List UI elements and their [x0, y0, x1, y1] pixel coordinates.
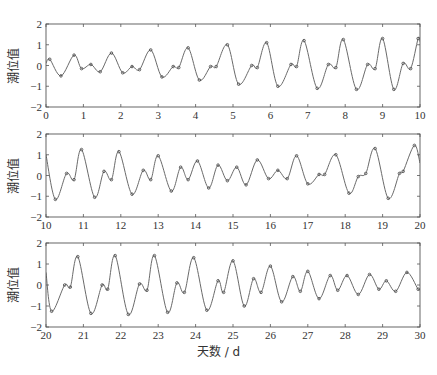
- x-tick-label: 22: [115, 329, 126, 341]
- y-tick-label: 2: [37, 237, 43, 249]
- y-tick-label: 1: [37, 39, 43, 51]
- x-tick-label: 10: [41, 219, 53, 231]
- y-axis-label: 潮位值: [6, 267, 21, 303]
- x-tick-label: 28: [340, 329, 352, 341]
- x-tick-label: 0: [43, 109, 49, 121]
- x-tick-label: 21: [78, 329, 89, 341]
- x-tick-label: 15: [228, 219, 240, 231]
- chart-panel-3: 2021222324252627282930−2−1012潮位值: [6, 237, 426, 341]
- x-tick-label: 23: [153, 329, 165, 341]
- y-tick-label: 0: [37, 170, 43, 182]
- y-tick-label: −2: [30, 101, 42, 113]
- x-tick-label: 20: [41, 329, 53, 341]
- y-tick-label: 2: [37, 18, 43, 30]
- tide-curve: [46, 145, 420, 199]
- y-tick-label: −1: [30, 300, 42, 312]
- tide-curve: [46, 37, 420, 90]
- x-tick-label: 12: [115, 219, 126, 231]
- y-tick-label: −1: [30, 80, 42, 92]
- x-tick-label: 19: [377, 219, 389, 231]
- y-tick-label: −2: [30, 211, 42, 223]
- x-tick-label: 14: [190, 219, 202, 231]
- x-tick-label: 29: [377, 329, 389, 341]
- x-tick-label: 2: [118, 109, 124, 121]
- x-tick-label: 11: [78, 219, 89, 231]
- x-tick-label: 8: [342, 109, 348, 121]
- tide-chart-figure: 012345678910−2−1012潮位值101112131415161718…: [0, 0, 437, 375]
- y-tick-label: −2: [30, 321, 42, 333]
- y-tick-label: −1: [30, 190, 42, 202]
- y-tick-label: 0: [37, 60, 43, 72]
- x-tick-label: 3: [155, 109, 161, 121]
- y-tick-label: 1: [37, 149, 43, 161]
- x-tick-label: 4: [193, 109, 199, 121]
- x-tick-label: 10: [415, 109, 427, 121]
- x-tick-label: 9: [380, 109, 386, 121]
- tide-curve: [46, 255, 420, 315]
- x-tick-label: 13: [153, 219, 165, 231]
- x-tick-label: 20: [415, 219, 427, 231]
- x-tick-label: 16: [265, 219, 277, 231]
- x-tick-label: 27: [302, 329, 314, 341]
- x-tick-label: 6: [268, 109, 274, 121]
- x-axis-label: 天数 / d: [0, 342, 437, 359]
- x-tick-label: 18: [340, 219, 352, 231]
- x-tick-label: 24: [190, 329, 202, 341]
- x-tick-label: 30: [415, 329, 427, 341]
- x-tick-label: 17: [302, 219, 314, 231]
- x-tick-label: 5: [230, 109, 236, 121]
- y-tick-label: 2: [37, 128, 43, 140]
- y-axis-label: 潮位值: [6, 48, 21, 84]
- x-tick-label: 7: [305, 109, 311, 121]
- x-tick-label: 25: [228, 329, 240, 341]
- y-tick-label: 0: [37, 279, 43, 291]
- x-tick-label: 26: [265, 329, 277, 341]
- y-tick-label: 1: [37, 258, 43, 270]
- y-axis-label: 潮位值: [6, 158, 21, 194]
- chart-panel-1: 012345678910−2−1012潮位值: [6, 18, 426, 121]
- chart-panel-2: 1011121314151617181920−2−1012潮位值: [6, 128, 426, 231]
- x-tick-label: 1: [81, 109, 87, 121]
